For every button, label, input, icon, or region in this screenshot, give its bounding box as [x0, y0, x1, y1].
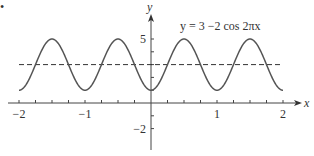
cosine-chart: • −2−1125−2 y = 3 −2 cos 2πx y x: [0, 0, 314, 156]
x-tick-label: 1: [214, 107, 220, 121]
tick-labels: −2−1125−2: [13, 32, 286, 136]
x-axis-label: x: [303, 96, 310, 110]
y-axis-label: y: [146, 0, 153, 14]
figure-marker: •: [0, 0, 4, 14]
y-tick-label: 5: [140, 32, 146, 46]
y-tick-label: −2: [133, 122, 146, 136]
axes: [8, 14, 302, 150]
x-tick-label: −2: [13, 107, 26, 121]
x-tick-label: −1: [79, 107, 92, 121]
equation-label: y = 3 −2 cos 2πx: [180, 19, 261, 33]
x-tick-label: 2: [280, 107, 286, 121]
